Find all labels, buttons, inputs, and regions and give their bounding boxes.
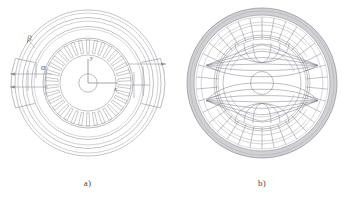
caption-a: a) <box>0 178 175 188</box>
flux-line <box>206 64 318 65</box>
rotor-slot <box>98 111 105 124</box>
stator-tooth <box>292 116 307 132</box>
figure-page: β α x y a) <box>0 0 349 200</box>
rotor-slot <box>45 85 58 89</box>
stator-tooth <box>218 116 233 132</box>
rotor-slot <box>45 77 58 81</box>
rotor-slot <box>118 85 131 89</box>
stator-tooth <box>218 34 233 50</box>
rotor-slot <box>71 42 78 55</box>
rotor-slot <box>46 70 59 76</box>
stator-tooth <box>196 77 218 79</box>
flux-line <box>206 65 318 76</box>
figure-panel-a: β α x y a) <box>0 0 175 200</box>
stator-tooth <box>196 87 218 89</box>
dimension-arrowheads-left <box>10 72 15 88</box>
flux-line <box>206 101 318 102</box>
rotor-slot <box>118 77 131 81</box>
stator-tooth <box>306 77 328 79</box>
rotor-slot <box>71 111 78 124</box>
rotor-slot <box>117 70 130 76</box>
rotor-slot <box>92 40 97 53</box>
stator-tooth <box>292 34 307 50</box>
rotor-slot <box>78 112 83 125</box>
rotor-slot <box>78 40 83 53</box>
figure-panel-b: b) <box>175 0 349 200</box>
flux-leakage-loop <box>253 104 271 124</box>
rotor-slot <box>46 90 59 96</box>
figure-a-drawing: β α x y <box>0 0 175 200</box>
flux-line <box>206 65 318 70</box>
figure-b-drawing <box>175 0 349 200</box>
stator-tooth <box>306 87 328 89</box>
label-axis-x: x <box>113 85 118 93</box>
flux-leakage-loop <box>253 43 271 63</box>
rotor-slot <box>92 112 97 125</box>
rotor-slot <box>98 42 105 55</box>
rotor-slot <box>117 90 130 96</box>
rotor-slot <box>86 113 89 126</box>
caption-b: b) <box>175 178 349 188</box>
label-alpha: α <box>41 63 46 72</box>
label-beta: β <box>26 33 32 43</box>
rotor-slot <box>86 40 89 53</box>
flux-line <box>206 96 318 101</box>
flux-line <box>206 89 318 100</box>
dimension-arrowheads-right <box>161 62 166 65</box>
